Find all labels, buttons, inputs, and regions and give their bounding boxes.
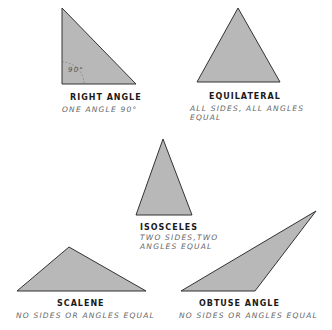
isosceles-desc-2: ANGLES EQUAL [140,242,212,251]
obtuse-desc: NO SIDES OR ANGLES EQUAL [179,311,318,320]
angle-90-mark: 90° [68,66,84,75]
right-angle-label: RIGHT ANGLE [70,93,142,102]
scalene-triangle [17,247,146,291]
scalene-label: SCALENE [57,299,105,308]
isosceles-triangle [136,139,192,215]
obtuse-label: OBTUSE ANGLE [199,299,280,308]
obtuse-triangle [181,211,316,291]
equilateral-desc-2: EQUAL [190,113,221,122]
right-angle-desc: ONE ANGLE 90° [62,105,137,114]
isosceles-desc-1: TWO SIDES,TWO [140,233,218,242]
isosceles-label: ISOSCELES [140,223,198,232]
equilateral-label: EQUILATERAL [209,92,281,101]
equilateral-desc-1: ALL SIDES, ALL ANGLES [190,104,304,113]
scalene-desc: NO SIDES OR ANGLES EQUAL [16,311,155,320]
triangles-diagram [0,0,332,330]
equilateral-triangle [197,8,280,82]
